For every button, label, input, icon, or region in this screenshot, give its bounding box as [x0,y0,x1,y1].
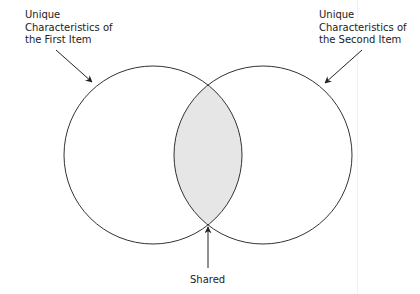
venn-diagram: Unique Characteristics of the First Item… [0,0,420,294]
first-item-label-line-2: Characteristics of [25,22,113,35]
second-item-label-line-3: the Second Item [319,34,407,47]
first-item-label-line-3: the First Item [25,34,113,47]
shared-region [174,66,352,244]
shared-label-text: Shared [190,274,225,287]
second-item-label-line-2: Characteristics of [319,22,407,35]
shared-label: Shared [190,274,225,287]
first-item-arrow [56,50,92,82]
first-item-label: Unique Characteristics of the First Item [25,9,113,47]
second-item-label: Unique Characteristics of the Second Ite… [319,9,407,47]
first-item-label-line-1: Unique [25,9,113,22]
second-item-label-line-1: Unique [319,9,407,22]
second-item-arrow [325,50,362,83]
